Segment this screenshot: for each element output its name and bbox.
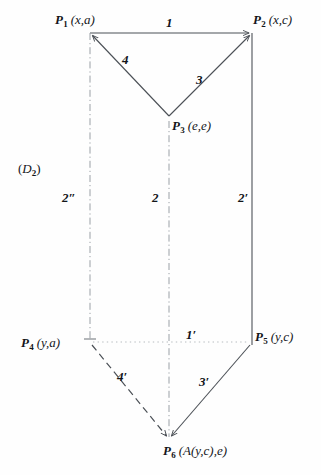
vertex-p3-subscript: 3 [180, 125, 185, 135]
edge-4-prime-line [92, 345, 167, 436]
vertex-p2-subscript: 2 [261, 19, 266, 29]
vertex-p1-subscript: 1 [63, 19, 68, 29]
edge-label-4-prime: 4′ [117, 370, 127, 383]
vertex-label-p4: P4(y,a) [21, 336, 60, 352]
vertex-p1-args: (x,a) [71, 12, 95, 27]
vertex-p5-args: (y,c) [271, 329, 294, 344]
vertex-label-p3: P3(e,e) [172, 119, 211, 135]
vertex-p5-subscript: 5 [263, 336, 268, 346]
vertex-p1-symbol: P [55, 12, 63, 27]
figure-name-close: ) [36, 161, 40, 176]
vertex-p2-args: (x,c) [269, 12, 292, 27]
vertex-p4-symbol: P [21, 335, 29, 350]
edge-4-line [93, 36, 170, 117]
edge-3-line [169, 36, 250, 117]
vertex-label-p5: P5(y,c) [255, 330, 293, 346]
edge-label-2-prime: 2′ [238, 191, 248, 204]
vertex-label-p6: P6(A(y,c),e) [163, 444, 227, 460]
edge-3-prime-line [172, 345, 251, 436]
vertex-p4-subscript: 4 [29, 342, 34, 352]
edge-label-2: 2 [152, 191, 159, 204]
edge-label-1-prime: 1′ [186, 328, 196, 341]
vertex-p2-symbol: P [253, 12, 261, 27]
edge-label-3: 3 [196, 73, 203, 86]
vertex-p3-symbol: P [172, 118, 180, 133]
vertex-p5-symbol: P [255, 329, 263, 344]
figure-name-symbol: D [22, 161, 31, 176]
figure-name-label: (D2) [18, 162, 41, 178]
vertex-p6-symbol: P [163, 443, 171, 458]
edge-label-2-double-prime: 2″ [62, 191, 76, 204]
vertex-label-p1: P1(x,a) [55, 13, 95, 29]
edge-label-3-prime: 3′ [199, 375, 209, 388]
vertex-p6-subscript: 6 [171, 450, 176, 460]
vertex-p6-args: (A(y,c),e) [179, 443, 227, 458]
figure-canvas: (D2) P1(x,a) P2(x,c) P3(e,e) P4(y,a) P5(… [0, 0, 321, 475]
vertex-p4-args: (y,a) [37, 335, 60, 350]
diagram-graphics [0, 0, 321, 475]
vertex-p3-args: (e,e) [188, 118, 211, 133]
edge-label-4: 4 [122, 53, 129, 66]
edge-label-1: 1 [166, 16, 173, 29]
vertex-label-p2: P2(x,c) [253, 13, 292, 29]
